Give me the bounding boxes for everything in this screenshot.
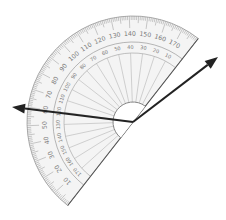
- outer-scale-label: 60: [41, 105, 49, 114]
- outer-scale-label: 140: [124, 30, 136, 37]
- outer-scale-label: 50: [41, 121, 48, 129]
- inner-scale-label: 50: [114, 45, 121, 52]
- protractor-svg: 1020304050607080901001101201301401501601…: [0, 0, 226, 220]
- inner-scale-label: 40: [127, 44, 134, 50]
- inner-scale-label: 30: [140, 44, 147, 51]
- arrow-left-arrowhead-icon: [12, 104, 26, 114]
- inner-scale-label: 130: [55, 120, 61, 130]
- arrow-upper-right-arrowhead-icon: [205, 57, 218, 69]
- protractor: 1020304050607080901001101201301401501601…: [27, 16, 198, 206]
- protractor-diagram: 1020304050607080901001101201301401501601…: [0, 0, 226, 220]
